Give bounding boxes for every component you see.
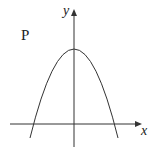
- parabola-diagram: P y x: [0, 0, 161, 150]
- y-axis-label: y: [61, 3, 70, 18]
- x-axis-label: x: [140, 123, 148, 138]
- curve-label: P: [21, 27, 29, 43]
- y-axis-arrow-icon: [71, 9, 77, 16]
